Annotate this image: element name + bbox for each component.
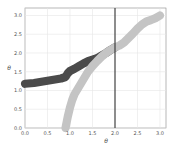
x-axis-label: θ [104, 137, 108, 144]
y-axis-ticks: 0.00.51.01.52.02.53.0 [14, 12, 22, 131]
x-tick-label: 1.0 [66, 130, 74, 136]
x-tick-label: 1.5 [89, 130, 97, 136]
y-tick-label: 1.0 [14, 87, 22, 93]
y-tick-label: 2.5 [14, 31, 22, 37]
x-tick-label: 0.0 [21, 130, 29, 136]
x-tick-label: 0.5 [44, 130, 52, 136]
x-tick-label: 3.0 [156, 130, 164, 136]
chart: 0.00.51.01.52.02.53.0 0.00.51.01.52.02.5… [0, 0, 196, 150]
y-tick-label: 0.0 [14, 125, 22, 131]
x-axis-ticks: 0.00.51.01.52.02.53.0 [21, 130, 164, 136]
y-tick-label: 2.0 [14, 50, 22, 56]
y-tick-label: 1.5 [14, 69, 22, 75]
y-tick-label: 0.5 [14, 106, 22, 112]
y-axis-label: θ [7, 64, 11, 71]
y-tick-label: 3.0 [14, 12, 22, 18]
x-tick-label: 2.0 [111, 130, 119, 136]
x-tick-label: 2.5 [134, 130, 142, 136]
